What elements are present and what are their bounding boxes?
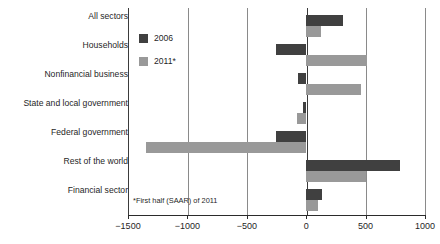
x-tick-1000 [425, 215, 426, 219]
x-tick-label-0: 0 [304, 221, 309, 231]
bar-nonfinancial-business-2006 [298, 73, 306, 84]
category-label-all-sectors: All sectors [88, 11, 128, 21]
x-tick-label--500: −500 [237, 221, 257, 231]
bar-all-sectors-2011 [306, 26, 321, 37]
x-tick-label-1000: 1000 [415, 221, 435, 231]
legend-swatch-icon-2011 [139, 57, 148, 66]
legend-item-2006: 2006 [139, 33, 176, 43]
bar-federal-government-2006 [276, 131, 306, 142]
category-label-nonfinancial-business: Nonfinancial business [44, 69, 128, 79]
bar-nonfinancial-business-2011 [306, 84, 361, 95]
category-label-state-and-local-government: State and local government [23, 98, 128, 108]
x-tick-label-500: 500 [358, 221, 373, 231]
bar-all-sectors-2006 [306, 15, 343, 26]
gridline--1000 [188, 8, 189, 215]
bar-state-and-local-government-2006 [303, 102, 306, 113]
category-label-federal-government: Federal government [51, 127, 128, 137]
x-tick-0 [306, 215, 307, 219]
legend: 2006 2011* [139, 33, 176, 79]
gridline--1500 [128, 8, 129, 215]
legend-label-2011: 2011* [154, 56, 176, 66]
gridline--500 [247, 8, 248, 215]
bar-chart: All sectors Households Nonfinancial busi… [0, 0, 440, 244]
bar-households-2006 [276, 44, 306, 55]
legend-label-2006: 2006 [154, 33, 173, 43]
x-axis-line [128, 215, 425, 216]
bar-state-and-local-government-2011 [297, 113, 307, 124]
bar-rest-of-the-world-2006 [306, 160, 400, 171]
bar-financial-sector-2011 [306, 200, 318, 211]
legend-item-2011: 2011* [139, 56, 176, 66]
category-label-households: Households [83, 40, 128, 50]
bar-rest-of-the-world-2011 [306, 171, 366, 182]
footnote-text: *First half (SAAR) of 2011 [133, 196, 217, 205]
legend-swatch-icon-2006 [139, 34, 148, 43]
x-tick-label--1000: −1000 [175, 221, 200, 231]
x-tick--1500 [128, 215, 129, 219]
gridline-1000 [425, 8, 426, 215]
category-label-rest-of-the-world: Rest of the world [64, 156, 128, 166]
x-tick--500 [247, 215, 248, 219]
bar-financial-sector-2006 [306, 189, 321, 200]
bar-federal-government-2011 [146, 142, 306, 153]
gridline-zero [307, 8, 308, 215]
category-label-financial-sector: Financial sector [68, 185, 128, 195]
bar-households-2011 [306, 55, 367, 66]
x-tick-label--1500: −1500 [115, 221, 140, 231]
gridline-500 [366, 8, 367, 215]
x-tick-500 [366, 215, 367, 219]
x-tick--1000 [187, 215, 188, 219]
